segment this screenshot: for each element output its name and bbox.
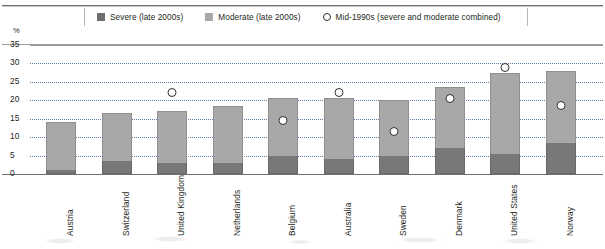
chart-figure: Severe (late 2000s) Moderate (late 2000s… (0, 0, 605, 249)
page-scan-artifact (0, 233, 605, 249)
bar-segment-moderate (102, 113, 132, 161)
marker-mid1990s-united-states (501, 63, 510, 72)
bar-segment-severe (157, 163, 187, 174)
marker-mid1990s-australia (334, 88, 343, 97)
bar-segment-severe (379, 156, 409, 174)
bar-australia[interactable] (324, 98, 354, 174)
bar-segment-moderate (46, 122, 76, 170)
bar-segment-moderate (324, 98, 354, 159)
marker-mid1990s-united-kingdom (168, 88, 177, 97)
bar-segment-severe (102, 161, 132, 174)
bar-norway[interactable] (546, 71, 576, 174)
x-tick-label-united-kingdom: United Kingdom (176, 175, 186, 236)
bar-segment-moderate (268, 98, 298, 155)
x-tick-label-norway: Norway (565, 207, 575, 236)
bar-united-states[interactable] (490, 73, 520, 174)
bar-netherlands[interactable] (213, 106, 243, 174)
x-tick-label-united-states: United States (509, 184, 519, 236)
x-tick-label-austria: Austria (65, 209, 75, 236)
marker-mid1990s-sweden (390, 127, 399, 136)
marker-mid1990s-norway (556, 101, 565, 110)
x-tick-label-switzerland: Switzerland (121, 192, 131, 236)
bar-segment-severe (324, 159, 354, 174)
bar-segment-moderate (213, 106, 243, 163)
bar-belgium[interactable] (268, 98, 298, 174)
x-tick-label-denmark: Denmark (454, 201, 464, 236)
bar-austria[interactable] (46, 122, 76, 174)
marker-mid1990s-belgium (279, 116, 288, 125)
bar-segment-moderate (157, 111, 187, 163)
bar-segment-severe (490, 154, 520, 174)
x-tick-label-sweden: Sweden (398, 205, 408, 236)
bar-united-kingdom[interactable] (157, 111, 187, 174)
bar-segment-severe (435, 148, 465, 174)
bar-segment-severe (546, 143, 576, 174)
x-tick-label-australia: Australia (343, 203, 353, 236)
bar-segment-severe (268, 156, 298, 174)
marker-mid1990s-denmark (445, 94, 454, 103)
bar-sweden[interactable] (379, 100, 409, 174)
bar-segment-moderate (490, 73, 520, 154)
bar-segment-severe (213, 163, 243, 174)
bar-segment-severe (46, 170, 76, 174)
x-tick-label-netherlands: Netherlands (232, 190, 242, 236)
bar-switzerland[interactable] (102, 113, 132, 174)
x-tick-label-belgium: Belgium (287, 205, 297, 236)
